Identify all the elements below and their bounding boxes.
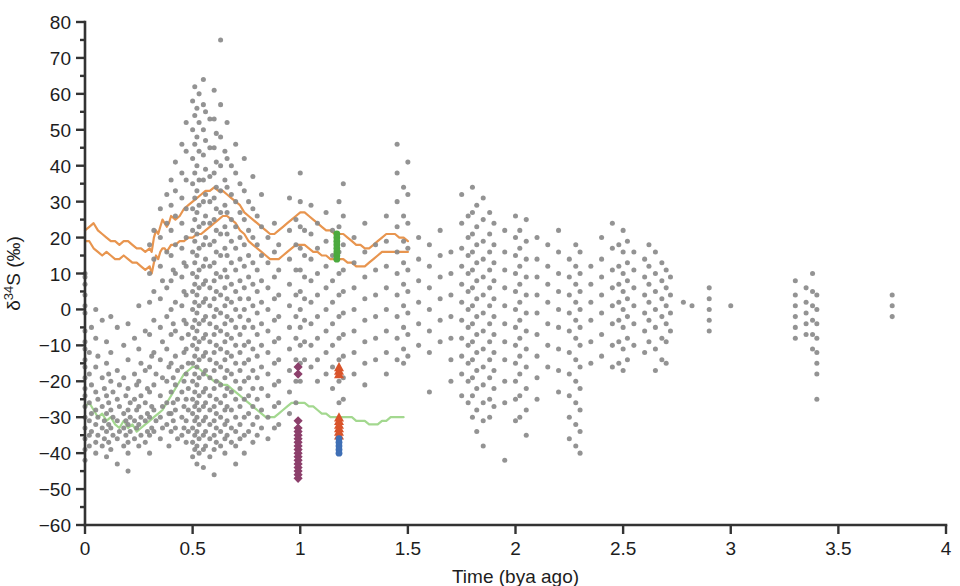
data-point bbox=[95, 397, 100, 402]
data-point bbox=[668, 328, 673, 333]
data-point bbox=[203, 386, 208, 391]
data-point bbox=[707, 307, 712, 312]
data-point bbox=[459, 246, 464, 251]
data-point bbox=[588, 264, 593, 269]
data-point bbox=[184, 120, 189, 125]
data-point bbox=[201, 127, 206, 132]
data-point bbox=[214, 131, 219, 136]
data-point bbox=[136, 379, 141, 384]
data-point bbox=[237, 422, 242, 427]
data-point bbox=[203, 213, 208, 218]
data-point bbox=[664, 339, 669, 344]
data-point bbox=[233, 415, 238, 420]
data-point bbox=[362, 318, 367, 323]
data-point bbox=[556, 249, 561, 254]
data-point bbox=[517, 246, 522, 251]
data-point bbox=[250, 386, 255, 391]
data-point bbox=[556, 390, 561, 395]
data-point bbox=[491, 350, 496, 355]
data-point bbox=[233, 246, 238, 251]
data-point bbox=[524, 239, 529, 244]
data-point bbox=[242, 415, 247, 420]
data-point bbox=[707, 296, 712, 301]
data-point bbox=[207, 408, 212, 413]
data-point bbox=[255, 332, 260, 337]
data-point bbox=[362, 339, 367, 344]
data-point bbox=[814, 293, 819, 298]
data-point bbox=[259, 364, 264, 369]
data-point bbox=[491, 332, 496, 337]
data-point bbox=[126, 422, 131, 427]
data-point bbox=[173, 425, 178, 430]
data-point bbox=[298, 170, 303, 175]
data-point bbox=[106, 372, 111, 377]
data-point bbox=[121, 443, 126, 448]
data-point bbox=[218, 443, 223, 448]
data-point bbox=[395, 336, 400, 341]
data-point bbox=[330, 321, 335, 326]
data-point bbox=[513, 235, 518, 240]
data-point bbox=[212, 88, 217, 93]
data-point bbox=[287, 196, 292, 201]
data-point bbox=[246, 199, 251, 204]
data-point bbox=[214, 440, 219, 445]
data-point bbox=[173, 213, 178, 218]
data-point bbox=[610, 343, 615, 348]
data-point bbox=[250, 235, 255, 240]
data-point bbox=[487, 249, 492, 254]
data-point bbox=[814, 372, 819, 377]
data-point bbox=[653, 368, 658, 373]
data-point bbox=[207, 242, 212, 247]
data-point bbox=[448, 357, 453, 362]
data-point bbox=[448, 379, 453, 384]
data-point bbox=[599, 235, 604, 240]
data-point bbox=[158, 264, 163, 269]
data-point bbox=[212, 368, 217, 373]
data-point bbox=[646, 242, 651, 247]
data-point bbox=[184, 321, 189, 326]
data-point bbox=[184, 149, 189, 154]
data-point bbox=[491, 278, 496, 283]
data-point bbox=[707, 285, 712, 290]
data-point bbox=[621, 307, 626, 312]
data-point bbox=[517, 318, 522, 323]
data-point bbox=[225, 386, 230, 391]
data-point bbox=[250, 206, 255, 211]
data-point bbox=[108, 447, 113, 452]
data-point bbox=[535, 235, 540, 240]
data-point bbox=[242, 156, 247, 161]
data-point bbox=[250, 346, 255, 351]
data-point bbox=[126, 321, 131, 326]
data-point bbox=[242, 325, 247, 330]
data-point bbox=[625, 260, 630, 265]
data-point bbox=[401, 213, 406, 218]
x-tick-label: 3.5 bbox=[825, 538, 851, 559]
data-point bbox=[87, 418, 92, 423]
data-point bbox=[524, 328, 529, 333]
data-point bbox=[160, 425, 165, 430]
data-point bbox=[459, 372, 464, 377]
data-point bbox=[192, 260, 197, 265]
data-point bbox=[315, 314, 320, 319]
data-point bbox=[405, 332, 410, 337]
data-point bbox=[95, 433, 100, 438]
data-point bbox=[212, 433, 217, 438]
data-point bbox=[517, 354, 522, 359]
data-point bbox=[405, 311, 410, 316]
x-tick-label: 2.5 bbox=[610, 538, 636, 559]
data-point bbox=[104, 429, 109, 434]
data-point bbox=[233, 361, 238, 366]
x-tick-label: 0.5 bbox=[179, 538, 205, 559]
data-point bbox=[242, 217, 247, 222]
data-point bbox=[225, 433, 230, 438]
data-point bbox=[233, 397, 238, 402]
data-point bbox=[222, 224, 227, 229]
data-point bbox=[502, 267, 507, 272]
data-point bbox=[190, 325, 195, 330]
data-point bbox=[793, 303, 798, 308]
data-point bbox=[513, 418, 518, 423]
data-point bbox=[567, 393, 572, 398]
data-point bbox=[126, 451, 131, 456]
data-point bbox=[147, 271, 152, 276]
data-point bbox=[143, 368, 148, 373]
